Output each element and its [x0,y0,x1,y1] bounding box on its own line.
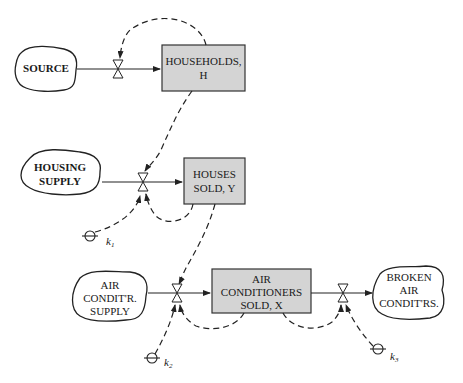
stock-households: HOUSEHOLDS, H [162,45,245,91]
cloud-broken-ac-label-3: CONDIT'RS. [379,297,439,309]
stock-houses-sold-label-1: HOUSES [193,168,236,180]
stock-houses-sold: HOUSES SOLD, Y [184,158,245,204]
stock-ac-sold-label-3: SOLD, X [240,299,282,311]
cloud-housing-supply: HOUSING SUPPLY [21,150,100,195]
cloud-housing-supply-label-1: HOUSING [34,161,86,173]
cloud-ac-supply-label-2: CONDIT'R. [83,292,137,304]
constant-k2-label: k2 [164,356,173,370]
stock-ac-sold-label-2: CONDITIONERS [221,286,302,298]
cloud-source: SOURCE [15,46,77,91]
info-link-k2-to-valve3 [155,305,175,354]
stock-ac-sold: AIR CONDITIONERS SOLD, X [212,269,311,313]
info-link-houses-sold-to-valve3 [179,204,215,284]
constant-k1-label: k1 [106,235,114,249]
constant-k3-label: k3 [390,350,399,364]
cloud-ac-supply-label-3: SUPPLY [90,305,130,317]
cloud-ac-supply-label-1: AIR [101,279,121,291]
stock-households-label-1: HOUSEHOLDS, [165,55,241,67]
stock-households-label-2: H [200,69,208,81]
constant-k2: k2 [144,353,173,370]
constant-k3: k3 [370,344,399,364]
cloud-broken-ac: BROKEN AIR CONDIT'RS. [373,266,444,319]
info-link-k1-to-valve2 [95,196,140,232]
stock-houses-sold-label-2: SOLD, Y [194,182,236,194]
stock-ac-sold-label-1: AIR [252,273,272,285]
stock-flow-diagram: SOURCE HOUSEHOLDS, H HOUSING SUPPLY HOUS… [0,0,463,383]
cloud-source-label: SOURCE [23,62,69,74]
info-link-k3-to-valve4 [346,305,373,346]
cloud-housing-supply-label-2: SUPPLY [39,175,81,187]
cloud-broken-ac-label-2: AIR [400,284,420,296]
cloud-broken-ac-label-1: BROKEN [386,271,431,283]
cloud-ac-supply: AIR CONDIT'R. SUPPLY [73,271,148,321]
constant-k1: k1 [82,231,114,249]
